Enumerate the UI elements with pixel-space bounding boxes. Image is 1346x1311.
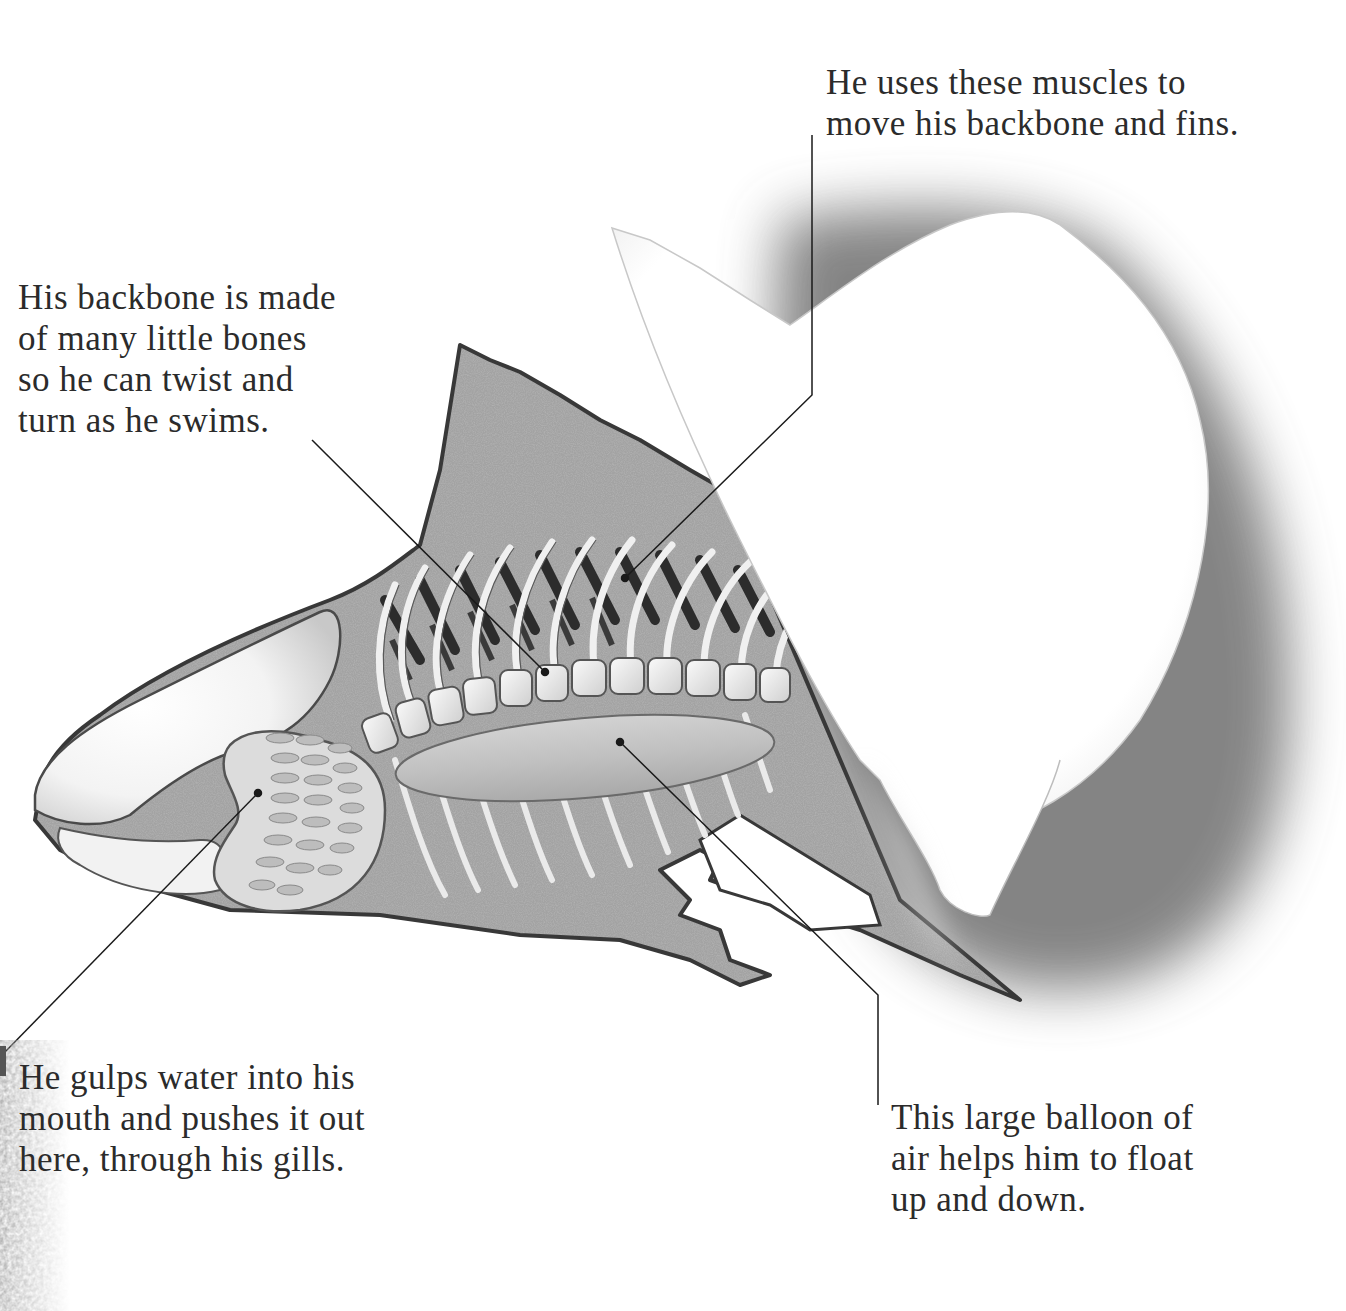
- label-gills: He gulps water into his mouth and pushes…: [19, 1057, 365, 1180]
- fish-anatomy-page: He uses these muscles to move his backbo…: [0, 0, 1346, 1311]
- label-muscles: He uses these muscles to move his backbo…: [826, 62, 1239, 144]
- label-swim-bladder: This large balloon of air helps him to f…: [891, 1097, 1194, 1220]
- label-backbone: His backbone is made of many little bone…: [18, 277, 336, 441]
